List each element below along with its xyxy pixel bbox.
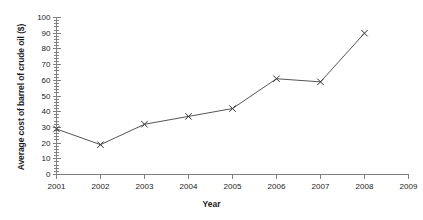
- y-tick-label: 80: [29, 44, 51, 53]
- data-point-markers: [53, 30, 367, 148]
- line-chart: Average cost of barrel of crude oil ($) …: [0, 0, 423, 220]
- data-series-line: [57, 33, 365, 144]
- x-tick-label: 2002: [81, 182, 121, 191]
- x-tick-label: 2003: [125, 182, 165, 191]
- y-tick-label: 100: [29, 13, 51, 22]
- data-point-marker: [361, 30, 367, 36]
- y-tick-label: 10: [29, 154, 51, 163]
- y-tick-label: 90: [29, 29, 51, 38]
- x-tick-label: 2009: [389, 182, 423, 191]
- y-tick-label: 0: [29, 170, 51, 179]
- y-tick-label: 60: [29, 76, 51, 85]
- y-tick-label: 20: [29, 139, 51, 148]
- axis-lines: [57, 18, 409, 175]
- series-polyline: [57, 33, 365, 144]
- y-tick-label: 40: [29, 107, 51, 116]
- y-tick-label: 30: [29, 123, 51, 132]
- x-tick-label: 2006: [257, 182, 297, 191]
- axis-ticks: [53, 18, 409, 179]
- y-tick-label: 70: [29, 60, 51, 69]
- x-tick-label: 2001: [37, 182, 77, 191]
- data-point-marker: [97, 141, 103, 147]
- y-tick-label: 50: [29, 92, 51, 101]
- x-tick-label: 2007: [301, 182, 341, 191]
- x-tick-label: 2005: [213, 182, 253, 191]
- x-tick-label: 2004: [169, 182, 209, 191]
- x-tick-label: 2008: [345, 182, 385, 191]
